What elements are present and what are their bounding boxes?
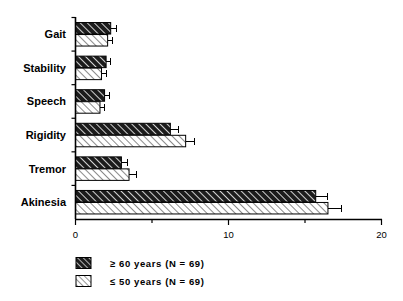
error-bar-rigidity-series-1 [170, 126, 178, 133]
bar-rigidity-series-1 [76, 123, 171, 135]
y-axis-label-tremor: Tremor [29, 163, 67, 175]
bar-speech-series-1 [76, 90, 105, 102]
error-bar-gait-series-2 [108, 37, 113, 44]
x-axis-tick-label-0: 0 [73, 229, 78, 240]
error-bar-speech-series-1 [105, 92, 110, 99]
x-axis-tick-labels: 01020 [73, 229, 387, 240]
y-axis-label-akinesia: Akinesia [21, 196, 67, 208]
error-bar-gait-series-1 [111, 25, 116, 32]
y-axis-label-rigidity: Rigidity [26, 129, 67, 141]
error-bar-akinesia-series-2 [328, 205, 342, 212]
error-bar-akinesia-series-1 [316, 193, 328, 200]
error-bar-stability-series-2 [102, 70, 107, 77]
error-bar-speech-series-2 [100, 104, 105, 111]
bar-stability-series-1 [76, 56, 107, 68]
legend-swatch-over-60 [76, 258, 91, 269]
bar-chart-figure: 01020 GaitStabilitySpeechRigidityTremorA… [0, 0, 403, 301]
bar-rigidity-series-2 [76, 135, 186, 147]
bar-tremor-series-2 [76, 169, 130, 181]
legend-label-under-50: ≤ 50 years (N = 69) [110, 276, 205, 287]
y-axis-label-speech: Speech [27, 95, 66, 107]
chart-container: 01020 GaitStabilitySpeechRigidityTremorA… [0, 0, 403, 301]
bar-stability-series-2 [76, 68, 102, 80]
bar-speech-series-2 [76, 102, 100, 114]
plot-area: 01020 GaitStabilitySpeechRigidityTremorA… [21, 17, 387, 240]
error-bar-tremor-series-2 [129, 171, 137, 178]
error-bar-tremor-series-1 [121, 159, 127, 166]
x-axis-tick-label-2: 20 [376, 229, 387, 240]
bar-gait-series-1 [76, 23, 111, 35]
x-axis-tick-label-1: 10 [223, 229, 234, 240]
y-axis-label-gait: Gait [45, 28, 67, 40]
error-bar-rigidity-series-2 [186, 138, 195, 145]
bar-gait-series-2 [76, 35, 108, 47]
legend-swatch-under-50 [76, 276, 91, 287]
y-axis-category-labels: GaitStabilitySpeechRigidityTremorAkinesi… [21, 28, 67, 208]
bar-akinesia-series-2 [76, 202, 328, 214]
legend-label-over-60: ≥ 60 years (N = 69) [110, 258, 205, 269]
bars-layer [76, 23, 328, 214]
y-axis-label-stability: Stability [23, 62, 67, 74]
legend: ≥ 60 years (N = 69) ≤ 50 years (N = 69) [76, 258, 205, 288]
error-bar-stability-series-1 [106, 58, 111, 65]
error-bars-layer [100, 25, 342, 212]
bar-akinesia-series-1 [76, 190, 316, 202]
bar-tremor-series-1 [76, 157, 122, 169]
